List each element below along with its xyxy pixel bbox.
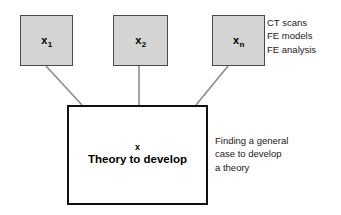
input-node-x1: x1 <box>20 15 73 66</box>
main-annotation-line-3: a theory <box>215 161 288 174</box>
main-node-theory-to-develop: x Theory to develop <box>67 105 208 205</box>
inputs-annotation-line-3: FE analysis <box>267 43 316 56</box>
diagram-canvas: x1 x2 xn x Theory to develop CT scans FE… <box>0 0 341 215</box>
main-node-variable: x <box>135 143 140 153</box>
input-node-x2: x2 <box>113 15 168 66</box>
input-node-xn: xn <box>212 15 265 66</box>
inputs-annotation-line-2: FE models <box>267 29 316 42</box>
inputs-annotation: CT scans FE models FE analysis <box>267 16 316 56</box>
input-node-xn-label: xn <box>233 35 244 46</box>
main-node-title: Theory to develop <box>88 152 187 167</box>
main-annotation-line-2: case to develop <box>215 147 288 160</box>
inputs-annotation-line-1: CT scans <box>267 16 316 29</box>
main-annotation: Finding a general case to develop a theo… <box>215 134 288 174</box>
connector-x1-to-main <box>46 66 82 105</box>
input-node-x1-label: x1 <box>41 35 52 46</box>
input-node-x2-label: x2 <box>135 35 146 46</box>
main-annotation-line-1: Finding a general <box>215 134 288 147</box>
connector-xn-to-main <box>196 66 228 105</box>
